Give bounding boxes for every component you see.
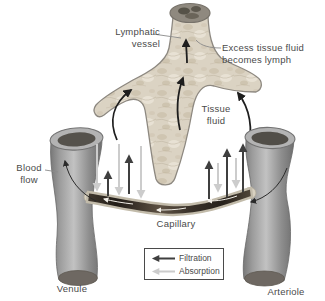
blood-flow-label: Blood flow [9,162,49,186]
tissue-fluid-label: Tissue fluid [190,103,242,127]
lymphatic-vessel-opening [170,4,210,23]
absorption-arrow-icon [151,267,175,276]
lymphatic-vessel-label: Lymphatic vessel [80,26,160,50]
venule-label: Venule [46,283,98,295]
legend-label-absorption: Absorption [179,267,220,276]
excess-tissue-fluid-label-line2: becomes lymph [222,54,322,66]
arteriole-bottom-cap [245,271,285,286]
excess-tissue-fluid-label: Excess tissue fluid becomes lymph [222,42,322,66]
lymph-entry-arrow-top [186,40,187,63]
venule-shape [49,126,103,285]
diagram-canvas: Lymphatic vessel Excess tissue fluid bec… [0,0,325,301]
blood-flow-label-line1: Blood [9,162,49,174]
tissue-fluid-label-line1: Tissue [190,103,242,115]
blood-flow-label-line2: flow [9,174,49,186]
excess-tissue-fluid-label-line1: Excess tissue fluid [222,42,322,54]
arteriole-label: Arteriole [256,286,316,298]
capillary-label: Capillary [141,218,211,230]
legend-item-filtration: Filtration [151,252,223,265]
legend-box: Filtration Absorption [144,248,224,280]
legend-label-filtration: Filtration [179,254,212,263]
arteriole-shape [243,126,295,286]
lymphatic-vessel-label-line2: vessel [80,38,160,50]
legend-item-absorption: Absorption [151,265,223,278]
filtration-arrow-icon [151,254,175,263]
lymphatic-vessel-label-line1: Lymphatic [80,26,160,38]
tissue-fluid-label-line2: fluid [190,115,242,127]
